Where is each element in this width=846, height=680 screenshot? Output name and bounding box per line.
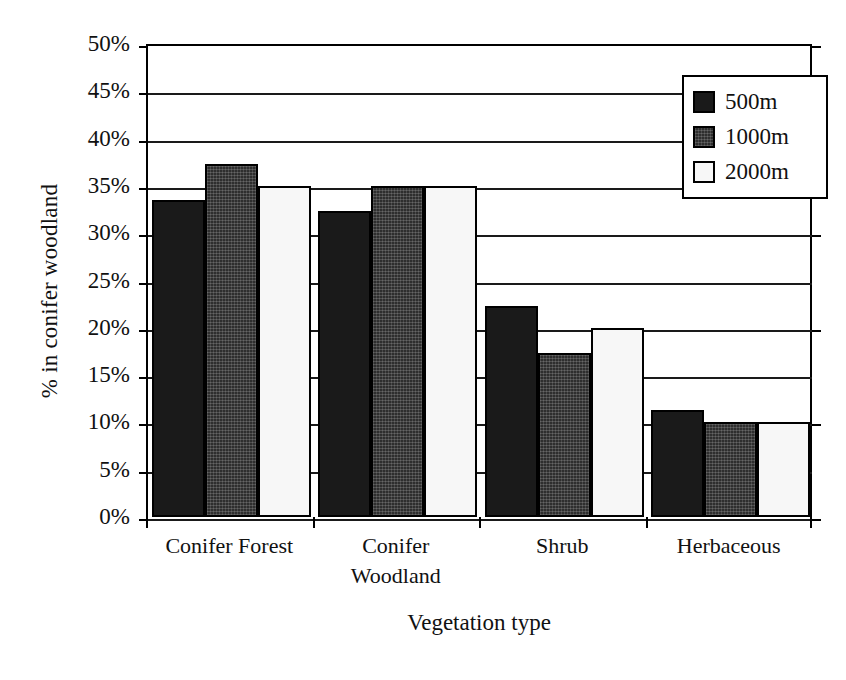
y-axis-tick-label: 35% <box>18 173 138 199</box>
y-axis-tick-label: 15% <box>18 362 138 388</box>
legend-label: 1000m <box>725 124 789 150</box>
y-axis-tick-label: 10% <box>18 409 138 435</box>
y-axis-tick <box>139 235 148 237</box>
bar-500m-herbaceous <box>651 410 704 517</box>
bar-500m-shrub <box>485 306 538 517</box>
bar-1000m-conifer-forest <box>205 164 258 517</box>
x-axis-label-line: Shrub <box>479 531 646 561</box>
legend-label: 500m <box>725 89 777 115</box>
x-axis-tick <box>146 517 148 528</box>
x-axis-tick <box>313 517 315 528</box>
y-axis-tick-label: 5% <box>18 457 138 483</box>
y-axis-tick-label: 45% <box>18 78 138 104</box>
x-axis-tick <box>646 517 648 528</box>
y-axis-tick-labels: 0%5%10%15%20%25%30%35%40%45%50% <box>0 44 138 517</box>
legend-swatch-icon <box>693 161 715 183</box>
y-axis-tick-label: 50% <box>18 31 138 57</box>
x-axis-label-conifer-woodland: ConiferWoodland <box>313 531 480 591</box>
x-axis-tick <box>479 517 481 528</box>
x-axis-title: Vegetation type <box>146 610 812 636</box>
x-axis-label-line: Herbaceous <box>646 531 813 561</box>
y-axis-tick-right <box>812 519 821 521</box>
y-axis-tick <box>139 330 148 332</box>
x-axis-label-line: Woodland <box>313 561 480 591</box>
bar-2000m-shrub <box>591 328 644 517</box>
y-axis-tick <box>139 46 148 48</box>
bar-2000m-herbaceous <box>757 422 810 517</box>
y-axis-tick <box>139 141 148 143</box>
bar-2000m-conifer-woodland <box>424 186 477 517</box>
y-axis-tick-label: 25% <box>18 268 138 294</box>
x-axis-label-herbaceous: Herbaceous <box>646 531 813 561</box>
y-axis-tick-label: 30% <box>18 220 138 246</box>
legend-swatch-icon <box>693 91 715 113</box>
x-axis-label-conifer-forest: Conifer Forest <box>146 531 313 561</box>
x-axis-label-shrub: Shrub <box>479 531 646 561</box>
y-axis-tick <box>139 377 148 379</box>
y-axis-tick <box>139 472 148 474</box>
y-axis-tick <box>139 93 148 95</box>
bar-1000m-shrub <box>538 353 591 517</box>
x-axis-ticks <box>146 517 812 529</box>
bar-1000m-conifer-woodland <box>371 186 424 517</box>
y-axis-tick-label: 0% <box>18 504 138 530</box>
legend-swatch-icon <box>693 126 715 148</box>
x-axis-label-line: Conifer <box>313 531 480 561</box>
y-axis-tick-label: 20% <box>18 315 138 341</box>
legend-item-1000m[interactable]: 1000m <box>693 119 817 154</box>
bar-group <box>148 46 315 517</box>
legend: 500m1000m2000m <box>682 75 828 199</box>
x-axis-tick <box>810 517 812 528</box>
legend-label: 2000m <box>725 159 789 185</box>
bar-chart: % in conifer woodland 0%5%10%15%20%25%30… <box>0 0 846 680</box>
y-axis-tick <box>139 283 148 285</box>
bar-500m-conifer-forest <box>152 200 205 517</box>
legend-item-500m[interactable]: 500m <box>693 84 817 119</box>
bar-2000m-conifer-forest <box>258 186 311 517</box>
legend-item-2000m[interactable]: 2000m <box>693 154 817 189</box>
y-axis-tick-label: 40% <box>18 126 138 152</box>
y-axis-tick <box>139 424 148 426</box>
bar-1000m-herbaceous <box>704 422 757 517</box>
bar-500m-conifer-woodland <box>318 211 371 517</box>
bar-group <box>481 46 648 517</box>
x-axis-label-line: Conifer Forest <box>146 531 313 561</box>
bar-group <box>315 46 482 517</box>
y-axis-tick <box>139 188 148 190</box>
x-axis-category-labels: Conifer ForestConiferWoodlandShrubHerbac… <box>146 531 812 599</box>
